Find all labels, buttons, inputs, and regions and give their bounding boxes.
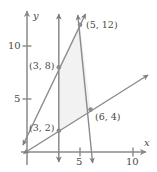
point-6-4 [88, 107, 93, 112]
point-5-12 [78, 23, 83, 28]
point-3-8 [57, 65, 62, 70]
coordinate-plane-svg [0, 0, 157, 172]
point-3-2 [57, 129, 62, 134]
graph-figure: y x 5 10 5 10 (3, 8) (5, 12) (3, 2) (6, … [0, 0, 157, 172]
